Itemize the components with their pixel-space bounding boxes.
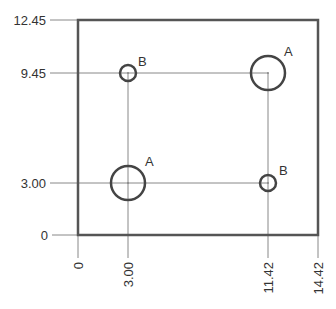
x-label-11-42: 11.42 (261, 262, 276, 294)
y-label-12-45: 12.45 (13, 13, 46, 28)
hole-label-bl: A (145, 154, 154, 169)
y-label-9-45: 9.45 (21, 66, 46, 81)
hole-label-tr: A (284, 44, 293, 59)
hole-label-tl: B (138, 54, 147, 69)
x-label-0: 0 (71, 262, 86, 269)
plate-drawing: B A A B 12.45 9.45 3.00 0 0 3.00 11.42 1… (0, 0, 336, 309)
y-label-3-00: 3.00 (21, 176, 46, 191)
x-label-3-00: 3.00 (121, 262, 136, 287)
hole-label-br: B (279, 163, 288, 178)
x-label-14-42: 14.42 (311, 262, 326, 295)
plate-outline (78, 20, 318, 235)
y-label-0: 0 (41, 228, 48, 243)
